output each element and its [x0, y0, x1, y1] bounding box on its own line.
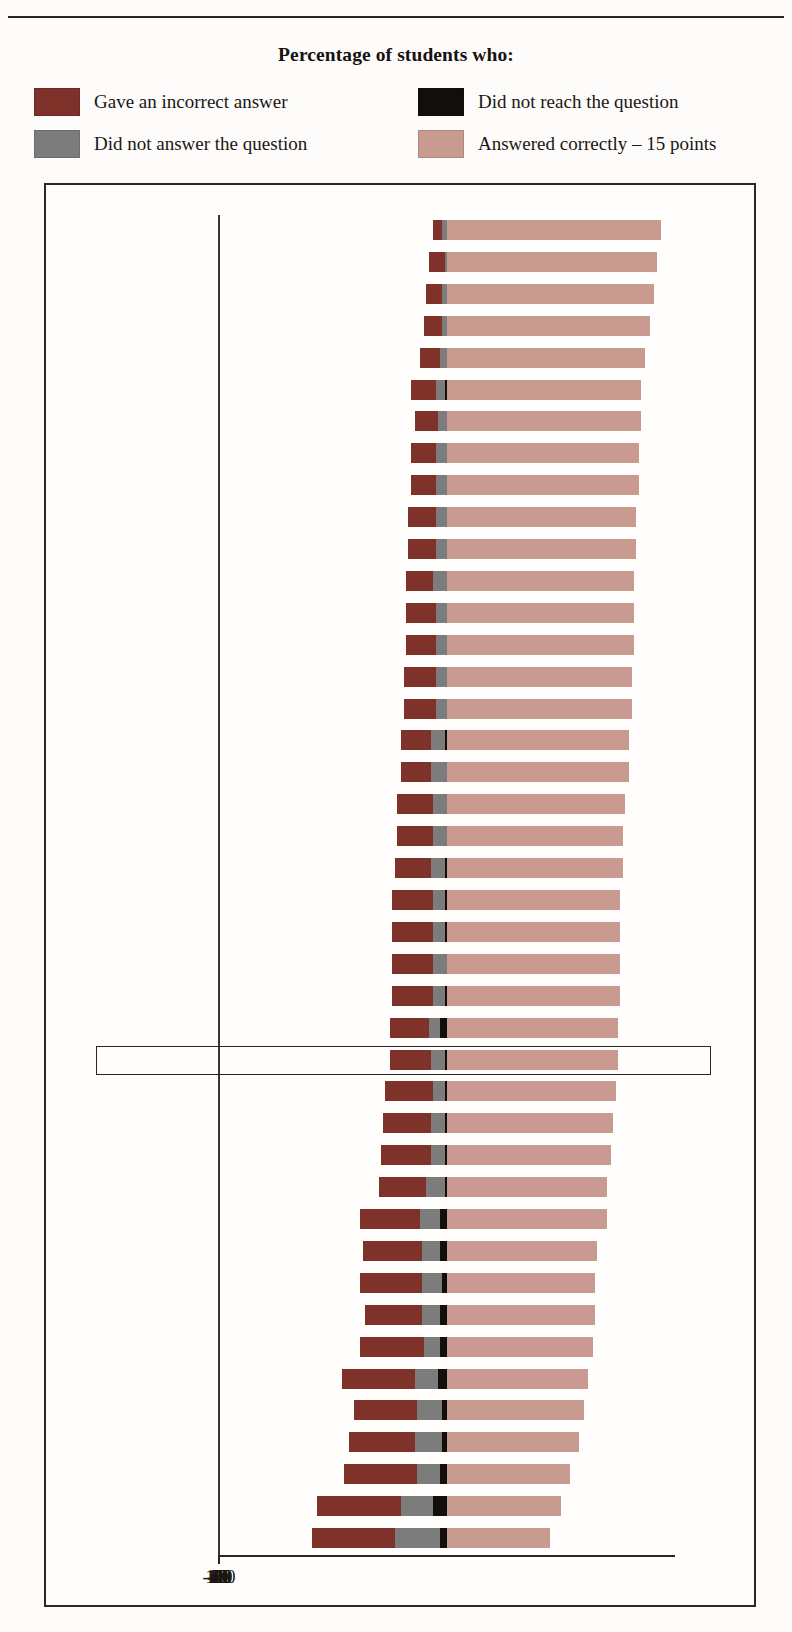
bar-segment-incorrect [397, 794, 433, 814]
bar-segment-correct [447, 1050, 618, 1070]
bar-segment-correct [447, 475, 639, 495]
bar-segment-correct [447, 1369, 588, 1389]
bar-segment-incorrect [408, 539, 435, 559]
bar-segment-incorrect [401, 762, 431, 782]
chart-row: Switzerland [219, 502, 675, 532]
bar-segment-no-answer [436, 507, 447, 527]
chart-row: Turkey [219, 1332, 675, 1362]
chart-row: Hong Kong-China [219, 279, 675, 309]
bar-segment-correct [447, 954, 620, 974]
bar-segment-incorrect [411, 475, 436, 495]
chart-row: Korea [219, 311, 675, 341]
bar-segment-correct [447, 826, 623, 846]
bar-segment-no-answer [436, 443, 447, 463]
bar-segment-correct [447, 348, 645, 368]
bar-segment-incorrect [426, 284, 442, 304]
bar-segment-no-answer [433, 954, 447, 974]
bar-segment-incorrect [379, 1177, 427, 1197]
bar-segment-incorrect [411, 380, 436, 400]
legend-label-correct: Answered correctly – 15 points [478, 133, 717, 155]
bar-segment-correct [447, 507, 636, 527]
bar-segment-incorrect [381, 1145, 431, 1165]
bar-segment-correct [447, 1528, 550, 1548]
plot-area: Macao-ChinaLiechtensteinHong Kong-ChinaK… [219, 215, 675, 1555]
chart-row: Luxembourg [219, 725, 675, 755]
bar-segment-incorrect [385, 1081, 433, 1101]
bar-segment-correct [447, 1432, 579, 1452]
bar-segment-not-reach [440, 1305, 447, 1325]
bar-segment-no-answer [436, 380, 445, 400]
bar-segment-incorrect [397, 826, 433, 846]
chart-row: Sweden [219, 1395, 675, 1425]
chart-row: Denmark [219, 375, 675, 405]
bar-segment-no-answer [433, 922, 444, 942]
bar-segment-incorrect [360, 1337, 424, 1357]
chart-frame: Macao-ChinaLiechtensteinHong Kong-ChinaK… [44, 183, 756, 1607]
bar-segment-incorrect [342, 1369, 415, 1389]
bar-segment-incorrect [404, 667, 436, 687]
chart-row: Liechtenstein [219, 247, 675, 277]
bar-segment-no-answer [436, 475, 447, 495]
bar-segment-correct [447, 1081, 616, 1101]
bar-segment-no-answer [431, 1145, 445, 1165]
chart-row: Ireland [219, 981, 675, 1011]
chart-row: Greece [219, 1236, 675, 1266]
bar-segment-not-reach [440, 1241, 447, 1261]
bar-segment-correct [447, 380, 641, 400]
bar-segment-no-answer [433, 571, 447, 591]
bar-segment-incorrect [365, 1305, 422, 1325]
bar-segment-incorrect [360, 1273, 422, 1293]
bar-segment-correct [447, 1464, 570, 1484]
chart-row: Mexico [219, 1523, 675, 1553]
bar-segment-incorrect [392, 954, 433, 974]
bar-segment-correct [447, 699, 632, 719]
bar-segment-not-reach [440, 1209, 447, 1229]
bar-segment-no-answer [436, 635, 447, 655]
bar-segment-no-answer [422, 1273, 443, 1293]
bar-segment-correct [447, 890, 620, 910]
bar-segment-correct [447, 284, 654, 304]
bar-segment-incorrect [317, 1496, 401, 1516]
bar-segment-incorrect [404, 699, 436, 719]
legend-item-no-answer: Did not answer the question [34, 130, 307, 158]
chart-row: Czech Republic [219, 789, 675, 819]
bar-segment-correct [447, 1496, 561, 1516]
bar-segment-no-answer [431, 858, 445, 878]
bar-segment-correct [447, 1177, 607, 1197]
bar-segment-incorrect [415, 411, 438, 431]
bar-segment-incorrect [383, 1113, 431, 1133]
bar-segment-incorrect [424, 316, 442, 336]
bar-segment-no-answer [438, 411, 447, 431]
bar-segment-no-answer [401, 1496, 433, 1516]
bar-segment-no-answer [395, 1528, 441, 1548]
page-header-remnant [8, 0, 784, 10]
chart-row: Poland [219, 949, 675, 979]
legend-label-not-reach: Did not reach the question [478, 91, 679, 113]
bar-segment-no-answer [422, 1305, 440, 1325]
bar-segment-incorrect [390, 1018, 429, 1038]
chart-row: Norway [219, 1427, 675, 1457]
chart-row: Brazil [219, 1491, 675, 1521]
bar-segment-correct [447, 411, 641, 431]
bar-segment-correct [447, 443, 639, 463]
bar-segment-incorrect [429, 252, 445, 272]
bar-segment-correct [447, 603, 634, 623]
chart-row: Spain [219, 1108, 675, 1138]
chart-row: Italy [219, 1172, 675, 1202]
legend-item-correct: Answered correctly – 15 points [418, 130, 717, 158]
bar-segment-no-answer [433, 1081, 444, 1101]
bar-segment-incorrect [420, 348, 441, 368]
header-divider [8, 16, 784, 18]
bar-segment-no-answer [422, 1241, 440, 1261]
bar-segment-incorrect [392, 986, 433, 1006]
chart-row: Austria [219, 406, 675, 436]
bar-segment-correct [447, 858, 623, 878]
bar-segment-no-answer [436, 699, 447, 719]
bar-segment-no-answer [436, 667, 447, 687]
chart-row: United States [219, 821, 675, 851]
bar-segment-incorrect [408, 507, 435, 527]
bar-segment-correct [447, 316, 650, 336]
chart-row: Tunisia [219, 1364, 675, 1394]
bar-segment-not-reach [440, 1528, 447, 1548]
legend-title: Percentage of students who: [0, 44, 792, 66]
